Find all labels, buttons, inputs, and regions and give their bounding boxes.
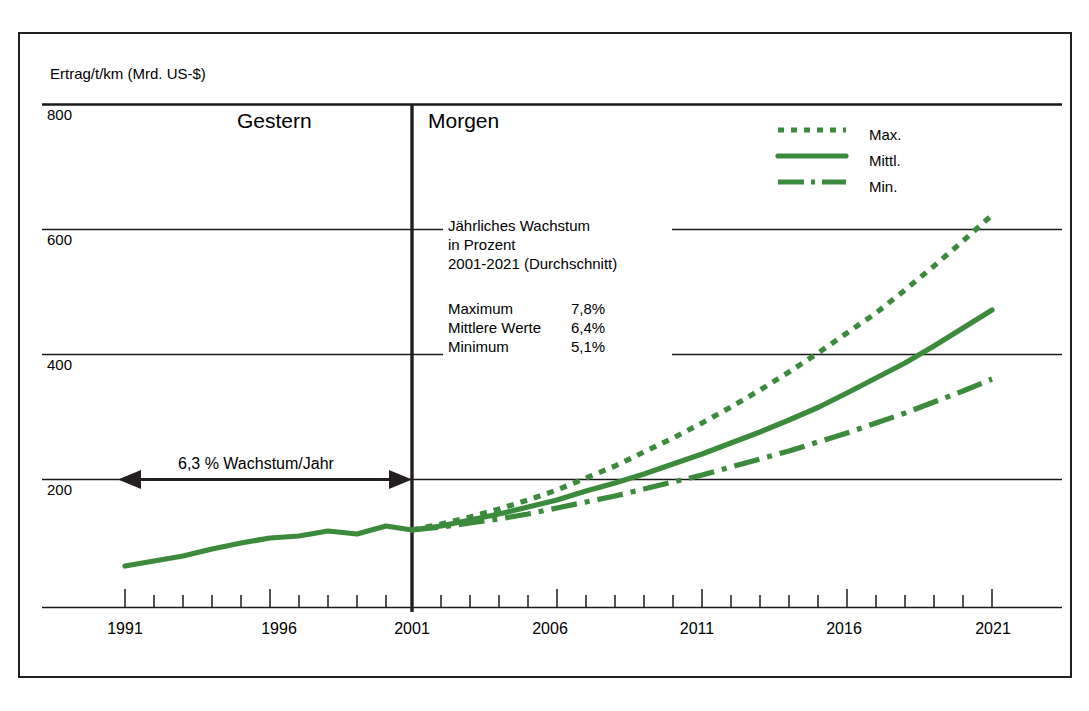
annotation-row-maximum: Maximum 7,8% — [448, 299, 631, 318]
x-tick-2021: 2021 — [953, 620, 1033, 637]
y-axis-title: Ertrag/t/km (Mrd. US-$) — [50, 66, 206, 82]
annotation-row-mittlere-werte: Mittlere Werte 6,4% — [448, 318, 631, 337]
annotation-block: Jährliches Wachstum in Prozent 2001-2021… — [448, 216, 631, 356]
x-tick-2001: 2001 — [372, 620, 452, 637]
legend-item-mittl: Mittl. — [855, 147, 902, 173]
legend-item-max: Max. — [855, 121, 902, 147]
era-label-past: Gestern — [237, 110, 312, 133]
x-axis — [42, 589, 1062, 608]
legend-swatches — [778, 130, 846, 182]
legend-label: Mittl. — [869, 153, 901, 168]
legend-label: Min. — [869, 179, 897, 194]
annotation-key: Maximum — [448, 299, 571, 318]
annotation-value: 6,4% — [571, 318, 631, 337]
legend-label: Max. — [869, 127, 902, 142]
annotation-line-1: Jährliches Wachstum — [448, 216, 631, 235]
annotation-key: Minimum — [448, 337, 571, 356]
annotation-row-minimum: Minimum 5,1% — [448, 337, 631, 356]
x-tick-2016: 2016 — [804, 620, 884, 637]
y-tick-400: 400 — [47, 357, 72, 373]
legend-item-min: Min. — [855, 173, 902, 199]
x-tick-1996: 1996 — [239, 620, 319, 637]
x-tick-2006: 2006 — [510, 620, 590, 637]
annotation-key: Mittlere Werte — [448, 318, 571, 337]
y-tick-200: 200 — [47, 482, 72, 498]
era-label-future: Morgen — [428, 110, 499, 133]
y-tick-800: 800 — [47, 107, 72, 123]
growth-arrow — [118, 470, 412, 489]
y-tick-600: 600 — [47, 232, 72, 248]
series-historisch — [125, 526, 412, 566]
annotation-value: 7,8% — [571, 299, 631, 318]
x-tick-1991: 1991 — [85, 620, 165, 637]
annotation-value: 5,1% — [571, 337, 631, 356]
annotation-line-2: in Prozent — [448, 235, 631, 254]
x-axis-ticks — [125, 589, 992, 607]
x-tick-2011: 2011 — [657, 620, 737, 637]
legend: Max. Mittl. Min. — [855, 121, 902, 199]
annotation-line-3: 2001-2021 (Durchschnitt) — [448, 254, 631, 273]
growth-arrow-label: 6,3 % Wachstum/Jahr — [178, 455, 334, 472]
chart-figure: Ertrag/t/km (Mrd. US-$) 800 600 400 200 … — [0, 0, 1089, 711]
